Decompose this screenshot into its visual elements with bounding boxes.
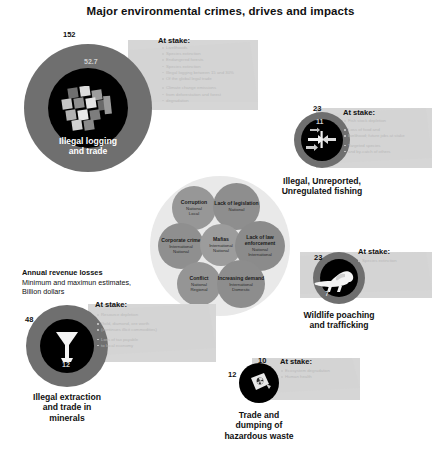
minerals-min-value: 12 bbox=[62, 361, 70, 368]
wildlife-at-stake-list: Species extinction bbox=[358, 258, 438, 272]
caption-line: hazardous waste bbox=[199, 431, 319, 441]
wildlife-max-value: 23 bbox=[314, 253, 322, 262]
stake-item: degradation bbox=[162, 98, 262, 103]
logging-at-stake-list: Livelihoods Species extinction Endangere… bbox=[162, 45, 262, 103]
caption-line: dumping of bbox=[199, 420, 319, 430]
stake-item: to local economy bbox=[97, 343, 197, 349]
driver-sub: National bbox=[173, 249, 189, 254]
waste-max-value: 10 bbox=[258, 356, 266, 365]
minerals-max-value: 48 bbox=[25, 315, 33, 324]
legend-line-2: Minimum and maximun estimates, bbox=[22, 278, 131, 287]
driver-sub: International bbox=[248, 252, 272, 257]
caption-line: and trade in bbox=[7, 402, 127, 412]
wildlife-caption: Wildlife poaching and trafficking bbox=[279, 310, 399, 331]
stake-item: Of the global legal trade bbox=[162, 76, 262, 82]
logging-caption: Illegal logging and trade bbox=[38, 136, 138, 157]
wildlife-at-stake-label: At stake: bbox=[358, 247, 390, 256]
minerals-caption: Illegal extraction and trade in minerals bbox=[7, 392, 127, 423]
legend-line-3: Billion dollars bbox=[22, 287, 64, 296]
driver-sub: National bbox=[229, 207, 245, 212]
fishing-at-stake-list: Fish stock depletion Loss of food and li… bbox=[344, 118, 436, 162]
driver-sub: Domestic bbox=[232, 287, 250, 292]
minerals-at-stake-label: At stake: bbox=[95, 300, 127, 309]
wildlife-min-value: 7 bbox=[325, 290, 329, 297]
stake-item: Species extinction bbox=[358, 258, 438, 264]
caption-line: minerals bbox=[7, 413, 127, 423]
infographic-canvas: Major environmental crimes, drives and i… bbox=[0, 0, 441, 456]
caption-line: Illegal, Unreported, bbox=[262, 176, 382, 186]
caption-line: Illegal extraction bbox=[7, 392, 127, 402]
caption-line: Unregulated fishing bbox=[262, 186, 382, 196]
waste-min-value: 12 bbox=[228, 370, 236, 379]
page-title: Major environmental crimes, drives and i… bbox=[0, 5, 441, 17]
caption-line: Wildlife poaching bbox=[279, 310, 399, 320]
stake-item: Human health bbox=[281, 374, 361, 380]
driver-sub: National bbox=[213, 248, 229, 253]
logging-at-stake-label: At stake: bbox=[158, 36, 190, 45]
caption-line: Trade and bbox=[199, 410, 319, 420]
driver-conflict[interactable]: Conflict National Regional bbox=[177, 262, 221, 306]
driver-sub: Local bbox=[189, 211, 199, 216]
waste-caption: Trade and dumping of hazardous waste bbox=[199, 410, 319, 441]
driver-title: Lack of law enforcement bbox=[235, 235, 285, 246]
minerals-at-stake-list: Resource depletion Gold, diamond, ore wo… bbox=[97, 312, 197, 356]
revenue-legend: Annual revenue losses Minimum and maximu… bbox=[22, 268, 131, 297]
fishing-caption: Illegal, Unreported, Unregulated fishing bbox=[262, 176, 382, 197]
fishing-at-stake-label: At stake: bbox=[343, 108, 375, 117]
logging-min-value: 52.7 bbox=[84, 58, 98, 65]
stake-item: Resource depletion bbox=[97, 312, 197, 318]
legend-line-1: Annual revenue losses bbox=[22, 268, 103, 277]
caption-line: and trafficking bbox=[279, 320, 399, 330]
drivers-hub: Corruption National Local Lack of legisl… bbox=[150, 176, 290, 316]
driver-sub: Regional bbox=[191, 287, 208, 292]
fishing-max-value: 23 bbox=[313, 104, 321, 113]
stake-item: Fish stock depletion bbox=[344, 118, 436, 124]
fishing-min-value: 11 bbox=[316, 118, 323, 125]
waste-at-stake-list: Ecosystem degradation Human health bbox=[281, 368, 361, 384]
caption-line: Illegal logging bbox=[38, 136, 138, 146]
caption-line: and trade bbox=[38, 146, 138, 156]
stake-item: livelihood; future jobs at stake bbox=[344, 133, 436, 139]
logging-max-value: 152 bbox=[63, 30, 76, 39]
fish-arrows-icon bbox=[304, 126, 340, 154]
waste-at-stake-label: At stake: bbox=[280, 357, 312, 366]
timber-stack-icon bbox=[58, 86, 120, 132]
driver-increasing-demand[interactable]: Increasing demand International Domestic bbox=[217, 260, 265, 308]
toxic-barrel-icon bbox=[247, 370, 273, 396]
stake-item: and by-catch of others bbox=[344, 149, 436, 155]
stake-item: (continues illicit commodities) bbox=[97, 327, 197, 333]
mineral-funnel-icon bbox=[52, 330, 82, 364]
